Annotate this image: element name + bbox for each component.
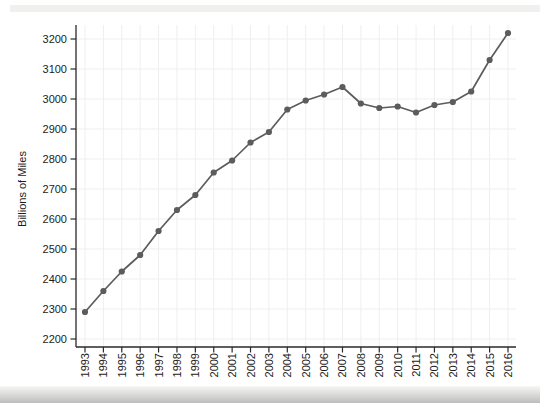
x-tick-label: 2005: [300, 353, 312, 377]
grid-layer: [76, 25, 516, 347]
y-tick-label: 2300: [43, 303, 67, 315]
data-point: [450, 99, 456, 105]
data-point: [119, 268, 125, 274]
y-tick-label: 2400: [43, 273, 67, 285]
data-point: [174, 207, 180, 213]
x-tick-label: 2006: [318, 353, 330, 377]
x-tick-label: 2009: [373, 353, 385, 377]
x-tick-label: 1997: [153, 353, 165, 377]
x-tick-label: 2007: [336, 353, 348, 377]
axes-layer: 2200230024002500260027002800290030003100…: [43, 25, 516, 377]
data-point: [339, 84, 345, 90]
scan-artifact-bottom-shadow: [0, 386, 540, 403]
x-tick-label: 1995: [116, 353, 128, 377]
y-tick-label: 2700: [43, 183, 67, 195]
y-tick-label: 2200: [43, 333, 67, 345]
x-tick-label: 2000: [208, 353, 220, 377]
data-point: [395, 103, 401, 109]
data-point: [376, 105, 382, 111]
x-tick-label: 2011: [410, 353, 422, 377]
data-point: [413, 109, 419, 115]
x-tick-label: 2015: [484, 353, 496, 377]
data-series: [82, 30, 511, 315]
scan-artifact-top-band: [10, 5, 540, 12]
data-point: [266, 129, 272, 135]
data-point: [487, 57, 493, 63]
data-point: [284, 106, 290, 112]
data-point: [100, 288, 106, 294]
line-chart: 2200230024002500260027002800290030003100…: [0, 0, 540, 403]
data-point: [82, 309, 88, 315]
data-point: [192, 192, 198, 198]
x-tick-label: 1999: [189, 353, 201, 377]
x-tick-label: 2014: [465, 353, 477, 377]
x-tick-label: 1994: [97, 353, 109, 377]
data-point: [505, 30, 511, 36]
x-tick-label: 2002: [245, 353, 257, 377]
data-point: [137, 252, 143, 258]
x-tick-label: 1993: [79, 353, 91, 377]
y-tick-label: 3100: [43, 63, 67, 75]
x-tick-label: 1996: [134, 353, 146, 377]
data-point: [211, 169, 217, 175]
x-tick-label: 1998: [171, 353, 183, 377]
y-tick-label: 3200: [43, 33, 67, 45]
x-tick-label: 2012: [428, 353, 440, 377]
trend-line: [85, 33, 508, 312]
x-tick-label: 2016: [502, 353, 514, 377]
y-axis-title: Billions of Miles: [16, 151, 28, 227]
x-tick-label: 2010: [392, 353, 404, 377]
data-point: [247, 139, 253, 145]
chart-figure: 2200230024002500260027002800290030003100…: [0, 0, 540, 403]
data-point: [229, 157, 235, 163]
y-tick-label: 2500: [43, 243, 67, 255]
data-point: [303, 97, 309, 103]
data-point: [358, 100, 364, 106]
x-tick-label: 2003: [263, 353, 275, 377]
y-tick-label: 2900: [43, 123, 67, 135]
data-point: [431, 102, 437, 108]
x-tick-label: 2004: [281, 353, 293, 377]
y-tick-label: 3000: [43, 93, 67, 105]
y-tick-label: 2600: [43, 213, 67, 225]
x-tick-label: 2013: [447, 353, 459, 377]
y-tick-label: 2800: [43, 153, 67, 165]
x-tick-label: 2008: [355, 353, 367, 377]
data-point: [155, 228, 161, 234]
data-point: [468, 88, 474, 94]
data-point: [321, 91, 327, 97]
x-tick-label: 2001: [226, 353, 238, 377]
